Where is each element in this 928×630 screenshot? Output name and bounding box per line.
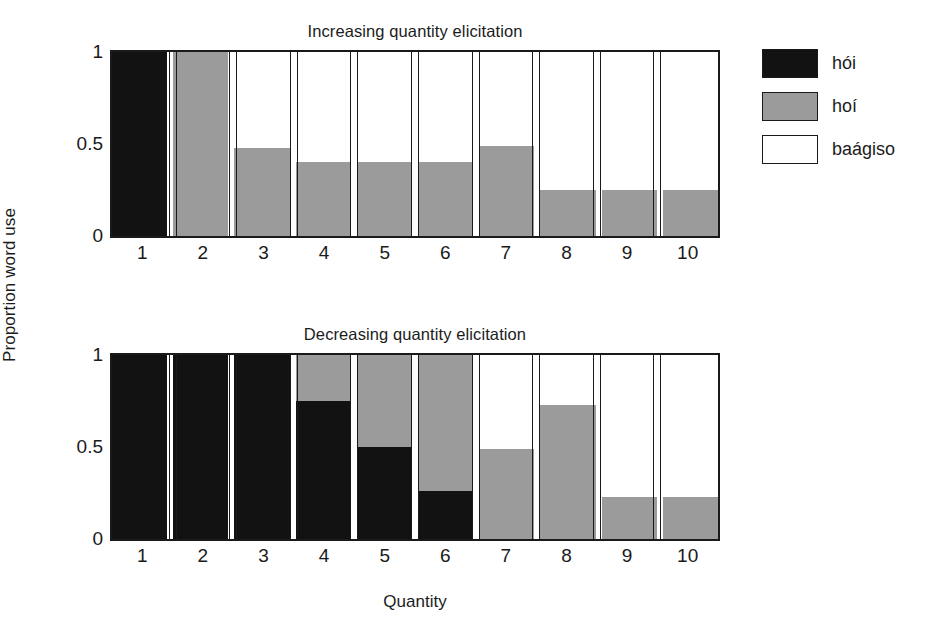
bar-increasing-9[interactable] [599, 52, 660, 236]
legend-swatch-black [762, 49, 818, 78]
y-tick-decreasing-1: 1 [92, 344, 112, 366]
bar-segment-ho [663, 497, 718, 539]
bar-decreasing-2[interactable] [170, 355, 231, 539]
bar-segment-ho [479, 449, 534, 539]
x-tick-decreasing-8: 8 [561, 539, 572, 567]
bar-segment-ho [602, 190, 657, 236]
bar-increasing-10[interactable] [660, 52, 718, 236]
panel-title-increasing: Increasing quantity elicitation [110, 22, 720, 41]
x-tick-decreasing-3: 3 [258, 539, 269, 567]
bar-segment-bagiso [602, 52, 657, 190]
bar-segment-ho [418, 162, 473, 236]
legend: hóihoíbaágiso [762, 44, 922, 173]
bar-group-decreasing [112, 355, 718, 539]
bar-decreasing-1[interactable] [112, 355, 170, 539]
bar-decreasing-3[interactable] [231, 355, 292, 539]
bar-segment-ho [418, 355, 473, 491]
bar-segment-ho [296, 355, 351, 401]
bar-segment-bagiso [479, 52, 534, 146]
bar-segment-ho [663, 190, 718, 236]
bar-decreasing-10[interactable] [660, 355, 718, 539]
x-tick-decreasing-6: 6 [440, 539, 451, 567]
bar-segment-ho [540, 190, 595, 236]
bar-segment-ho [602, 497, 657, 539]
x-tick-increasing-8: 8 [561, 236, 572, 264]
y-tick-increasing-0: 0 [92, 225, 112, 247]
bar-segment-ho [357, 355, 412, 447]
x-tick-increasing-7: 7 [501, 236, 512, 264]
bar-segment-bagiso [357, 52, 412, 162]
bar-segment-ho [173, 52, 228, 236]
bar-increasing-1[interactable] [112, 52, 170, 236]
bar-decreasing-9[interactable] [599, 355, 660, 539]
x-axis-label: Quantity [110, 592, 720, 612]
bar-segment-bagiso [234, 52, 289, 148]
bar-segment-bagiso [540, 52, 595, 190]
bar-segment-ho [540, 405, 595, 539]
bar-increasing-5[interactable] [354, 52, 415, 236]
bar-decreasing-7[interactable] [476, 355, 537, 539]
legend-item-bagiso[interactable]: baágiso [762, 130, 922, 168]
x-tick-increasing-9: 9 [622, 236, 633, 264]
legend-label: hói [832, 53, 856, 74]
x-tick-decreasing-2: 2 [198, 539, 209, 567]
bar-segment-hi [173, 355, 228, 539]
bar-segment-bagiso [663, 355, 718, 497]
bar-segment-hi [112, 52, 167, 236]
bar-segment-bagiso [602, 355, 657, 497]
x-tick-increasing-1: 1 [137, 236, 148, 264]
legend-label: baágiso [832, 139, 895, 160]
legend-item-ho[interactable]: hoí [762, 87, 922, 125]
legend-swatch-gray [762, 92, 818, 121]
y-tick-decreasing-0: 0 [92, 528, 112, 550]
stacked-bar-figure: Proportion word use Increasing quantity … [0, 0, 928, 630]
bar-segment-bagiso [296, 52, 351, 162]
x-tick-increasing-3: 3 [258, 236, 269, 264]
x-tick-decreasing-9: 9 [622, 539, 633, 567]
bar-increasing-2[interactable] [170, 52, 231, 236]
y-tick-increasing-1: 1 [92, 41, 112, 63]
bar-decreasing-4[interactable] [293, 355, 354, 539]
x-tick-increasing-6: 6 [440, 236, 451, 264]
bar-increasing-6[interactable] [415, 52, 476, 236]
bar-segment-hi [234, 355, 289, 539]
plot-area-decreasing: 1234567891000.51 [110, 353, 720, 541]
plot-area-increasing: 1234567891000.51 [110, 50, 720, 238]
bar-segment-hi [112, 355, 167, 539]
bar-decreasing-8[interactable] [537, 355, 598, 539]
x-tick-increasing-5: 5 [379, 236, 390, 264]
bar-segment-hi [296, 401, 351, 539]
legend-swatch-white [762, 135, 818, 164]
bar-segment-bagiso [540, 355, 595, 405]
x-tick-increasing-10: 10 [677, 236, 698, 264]
bar-segment-bagiso [418, 52, 473, 162]
x-tick-decreasing-4: 4 [319, 539, 330, 567]
bar-segment-ho [479, 146, 534, 236]
bar-decreasing-5[interactable] [354, 355, 415, 539]
x-tick-decreasing-1: 1 [137, 539, 148, 567]
bar-increasing-3[interactable] [231, 52, 292, 236]
bar-segment-hi [418, 491, 473, 539]
bar-increasing-4[interactable] [293, 52, 354, 236]
x-tick-decreasing-7: 7 [501, 539, 512, 567]
bar-segment-bagiso [663, 52, 718, 190]
bar-group-increasing [112, 52, 718, 236]
bar-increasing-7[interactable] [476, 52, 537, 236]
x-tick-increasing-4: 4 [319, 236, 330, 264]
x-tick-increasing-2: 2 [198, 236, 209, 264]
bar-segment-hi [357, 447, 412, 539]
bar-segment-ho [234, 148, 289, 236]
bar-increasing-8[interactable] [537, 52, 598, 236]
bar-segment-ho [296, 162, 351, 236]
bar-segment-ho [357, 162, 412, 236]
bar-segment-bagiso [479, 355, 534, 449]
x-tick-decreasing-10: 10 [677, 539, 698, 567]
legend-item-hi[interactable]: hói [762, 44, 922, 82]
y-axis-label: Proportion word use [0, 208, 20, 362]
legend-label: hoí [832, 96, 857, 117]
x-tick-decreasing-5: 5 [379, 539, 390, 567]
panel-title-decreasing: Decreasing quantity elicitation [110, 325, 720, 344]
bar-decreasing-6[interactable] [415, 355, 476, 539]
y-tick-decreasing-0_5: 0.5 [77, 436, 112, 458]
y-tick-increasing-0_5: 0.5 [77, 133, 112, 155]
